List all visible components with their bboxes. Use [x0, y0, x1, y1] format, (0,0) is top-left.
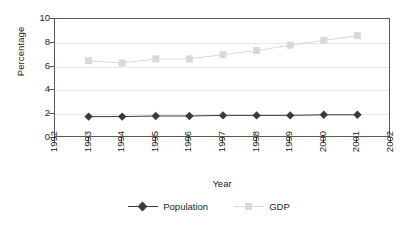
legend-label: Population — [163, 201, 208, 212]
data-series-layer — [55, 19, 390, 137]
data-point-gdp — [85, 57, 92, 64]
legend-entry-gdp[interactable]: GDP — [234, 201, 290, 212]
data-point-population — [152, 112, 160, 120]
plot-area — [54, 18, 390, 137]
chart-container: Percentage 1086420 199219931994199519961… — [0, 0, 418, 228]
data-point-population — [219, 111, 227, 119]
x-axis-tick-label: 2000 — [318, 131, 328, 167]
data-point-gdp — [287, 42, 294, 49]
x-axis-tick-label: 1998 — [251, 131, 261, 167]
data-point-population — [320, 111, 328, 119]
x-axis-tick-label: 1996 — [183, 131, 193, 167]
x-axis-title: Year — [54, 178, 390, 189]
y-axis-tick-label: 6 — [30, 61, 50, 71]
data-point-population — [252, 111, 260, 119]
series-line-gdp — [89, 36, 358, 63]
data-point-gdp — [186, 55, 193, 62]
data-point-gdp — [119, 60, 126, 67]
legend-marker-diamond-icon — [128, 202, 158, 212]
y-axis-tick-label: 8 — [30, 37, 50, 47]
x-axis-tick-label: 1997 — [217, 131, 227, 167]
x-axis-tick-label: 1999 — [284, 131, 294, 167]
data-point-population — [353, 111, 361, 119]
data-point-gdp — [220, 51, 227, 58]
y-axis-tick-label: 2 — [30, 108, 50, 118]
data-point-gdp — [253, 47, 260, 54]
data-point-gdp — [320, 37, 327, 44]
x-axis-tick-label: 2002 — [385, 131, 395, 167]
data-point-population — [84, 112, 92, 120]
data-point-population — [286, 111, 294, 119]
y-axis-tick-label: 4 — [30, 84, 50, 94]
x-axis-tick-label: 1995 — [150, 131, 160, 167]
data-point-gdp — [354, 32, 361, 39]
chart-legend: PopulationGDP — [0, 201, 418, 212]
y-axis-tick-label: 10 — [30, 13, 50, 23]
x-axis-tick-label: 2001 — [351, 131, 361, 167]
y-axis-tick-labels: 1086420 — [26, 0, 50, 228]
legend-entry-population[interactable]: Population — [128, 201, 208, 212]
x-axis-tick-label: 1992 — [49, 131, 59, 167]
legend-label: GDP — [269, 201, 290, 212]
y-axis-tick-label: 0 — [30, 132, 50, 142]
data-point-population — [118, 112, 126, 120]
legend-marker-square-icon — [234, 202, 264, 212]
data-point-population — [185, 112, 193, 120]
x-axis-tick-label: 1994 — [116, 131, 126, 167]
y-axis-title: Percentage — [15, 2, 26, 102]
x-axis-tick-label: 1993 — [83, 131, 93, 167]
data-point-gdp — [152, 55, 159, 62]
